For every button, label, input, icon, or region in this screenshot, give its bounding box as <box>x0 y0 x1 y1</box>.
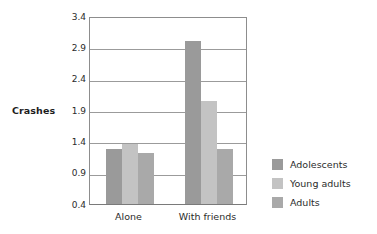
y-tick-label: 1.4 <box>72 138 86 147</box>
legend-swatch-icon <box>272 178 283 189</box>
x-category-label: With friends <box>158 211 258 222</box>
chart-legend: AdolescentsYoung adultsAdults <box>272 155 374 212</box>
bar-adults-with-friends[interactable] <box>217 149 233 204</box>
y-tick-label: 1.9 <box>72 107 86 116</box>
legend-label: Adolescents <box>290 159 347 170</box>
y-tick-label: 0.9 <box>72 169 86 178</box>
legend-label: Young adults <box>290 178 351 189</box>
legend-item[interactable]: Adolescents <box>272 155 374 174</box>
y-axis-tick-labels: 0.40.91.41.92.42.93.4 <box>58 0 86 234</box>
legend-item[interactable]: Adults <box>272 193 374 212</box>
plot-area <box>89 17 247 205</box>
bar-young-adults-with-friends[interactable] <box>201 101 217 204</box>
bar-group-with-friends <box>185 18 233 204</box>
legend-swatch-icon <box>272 159 283 170</box>
bar-adults-alone[interactable] <box>138 153 154 204</box>
legend-swatch-icon <box>272 197 283 208</box>
y-tick-label: 2.4 <box>72 75 86 84</box>
bar-adolescents-with-friends[interactable] <box>185 41 201 204</box>
y-tick-label: 3.4 <box>72 13 86 22</box>
legend-item[interactable]: Young adults <box>272 174 374 193</box>
bar-group-alone <box>106 18 154 204</box>
y-axis-title: Crashes <box>12 105 55 116</box>
legend-label: Adults <box>290 197 320 208</box>
bar-young-adults-alone[interactable] <box>122 144 138 204</box>
y-tick-label: 2.9 <box>72 44 86 53</box>
bar-adolescents-alone[interactable] <box>106 149 122 204</box>
y-tick-label: 0.4 <box>72 201 86 210</box>
bar-chart-figure: Crashes 0.40.91.41.92.42.93.4 AloneWith … <box>0 0 377 234</box>
